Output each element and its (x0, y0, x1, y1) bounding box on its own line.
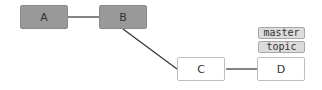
branch-tag-master: master (258, 27, 305, 39)
commit-label-a: A (40, 11, 48, 24)
commit-node-a[interactable]: A (20, 5, 68, 29)
commit-label-d: D (277, 63, 285, 76)
commit-label-b: B (119, 11, 127, 24)
commit-node-b[interactable]: B (99, 5, 147, 29)
commit-node-d[interactable]: D (257, 57, 305, 81)
commit-node-c[interactable]: C (177, 57, 225, 81)
edge-b-c (123, 29, 177, 69)
branch-tag-topic: topic (258, 41, 305, 53)
commit-label-c: C (197, 63, 205, 76)
